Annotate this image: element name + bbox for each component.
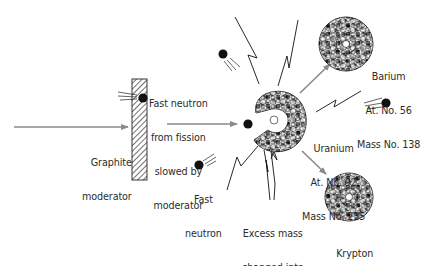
label-line: Graphite	[82, 157, 132, 168]
label-uranium: Uranium At. No. 92 Mass No. 235	[302, 120, 365, 234]
label-line: moderator	[82, 191, 132, 202]
label-energy: Excess mass changed into energy	[242, 205, 304, 266]
label-krypton: Krypton At. No. 36 Mass No. 95	[326, 225, 383, 266]
label-barium: Barium At. No. 56 Mass No. 138	[357, 48, 420, 162]
label-fast-neutron: Fast neutron	[185, 171, 222, 251]
label-line: Mass No. 138	[357, 139, 420, 150]
label-line: from fission	[149, 132, 208, 143]
label-line: Krypton	[326, 248, 383, 259]
label-line: Fast neutron	[149, 98, 208, 109]
label-line: At. No. 56	[357, 105, 420, 116]
label-line: neutron	[185, 228, 222, 239]
label-line: Mass No. 235	[302, 211, 365, 222]
label-line: Uranium	[302, 143, 365, 154]
barium-arrow	[300, 64, 330, 93]
label-line: At. No. 92	[302, 177, 365, 188]
label-line: Fast	[185, 194, 222, 205]
label-graphite-moderator: Graphite moderator	[82, 134, 132, 214]
neutron-icon	[243, 119, 252, 128]
uranium-nucleus	[254, 91, 306, 151]
label-line: Excess mass	[242, 228, 304, 239]
fast-neutron-icon-top	[219, 50, 241, 72]
label-line: Barium	[357, 71, 420, 82]
label-line: changed into	[242, 262, 304, 266]
